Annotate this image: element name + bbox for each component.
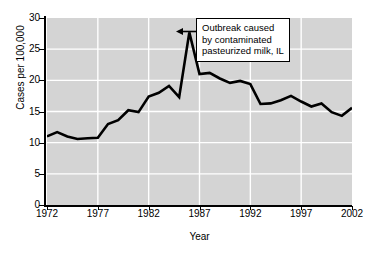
x-tick-mark-1987 bbox=[200, 206, 201, 210]
x-tick-mark-1982 bbox=[149, 206, 150, 210]
outbreak-annotation-callout: Outbreak caused by contaminated pasteuri… bbox=[196, 18, 290, 62]
x-tick-label-1997: 1997 bbox=[281, 209, 321, 219]
x-axis-line bbox=[44, 205, 352, 207]
y-tick-mark-30 bbox=[39, 18, 45, 19]
y-tick-mark-5 bbox=[39, 174, 45, 175]
y-tick-mark-0 bbox=[39, 205, 45, 206]
chart-figure: Cases per 100,000 051015202530 Outbreak … bbox=[0, 0, 370, 253]
x-tick-mark-1992 bbox=[250, 206, 251, 210]
x-tick-label-1977: 1977 bbox=[78, 209, 118, 219]
y-tick-mark-10 bbox=[39, 143, 45, 144]
x-tick-label-1987: 1987 bbox=[180, 209, 220, 219]
callout-line-1: Outbreak caused bbox=[202, 22, 284, 34]
x-tick-label-1992: 1992 bbox=[230, 209, 270, 219]
y-tick-label-20: 20 bbox=[18, 75, 40, 85]
x-tick-label-2002: 2002 bbox=[332, 209, 370, 219]
x-tick-label-1972: 1972 bbox=[27, 209, 67, 219]
y-tick-label-30: 30 bbox=[18, 13, 40, 23]
y-tick-label-15: 15 bbox=[18, 107, 40, 117]
x-tick-label-1982: 1982 bbox=[129, 209, 169, 219]
x-tick-mark-2002 bbox=[352, 206, 353, 210]
y-tick-mark-20 bbox=[39, 80, 45, 81]
y-tick-mark-25 bbox=[39, 49, 45, 50]
x-tick-mark-1977 bbox=[98, 206, 99, 210]
callout-line-3: pasteurized milk, IL bbox=[202, 45, 284, 57]
y-tick-mark-15 bbox=[39, 112, 45, 113]
x-tick-mark-1972 bbox=[47, 206, 48, 210]
y-tick-label-5: 5 bbox=[18, 169, 40, 179]
y-tick-label-10: 10 bbox=[18, 138, 40, 148]
x-axis-tick-labels: 1972197719821987199219972002 bbox=[0, 209, 370, 223]
x-tick-mark-1997 bbox=[301, 206, 302, 210]
callout-line-2: by contaminated bbox=[202, 34, 284, 46]
y-tick-label-25: 25 bbox=[18, 44, 40, 54]
x-axis-title: Year bbox=[47, 231, 352, 242]
callout-arrow-icon bbox=[176, 27, 198, 36]
